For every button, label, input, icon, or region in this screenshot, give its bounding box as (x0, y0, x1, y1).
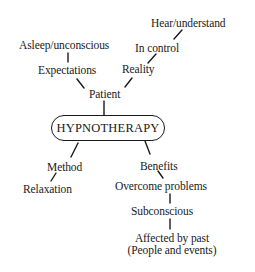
node-affected-by-past: Affected by past (People and events) (118, 232, 226, 256)
edge-incontrol-reality (148, 54, 156, 63)
edge-reality-patient (125, 78, 132, 87)
edge-method-relaxation (51, 173, 56, 181)
node-asleep-unconscious: Asleep/unconscious (19, 39, 109, 51)
edge-hypnotherapy-benefits (145, 141, 150, 154)
node-affected-by-past-line2: (People and events) (118, 244, 226, 256)
edge-expectations-patient (77, 79, 84, 88)
node-overcome-problems: Overcome problems (115, 180, 207, 192)
node-affected-by-past-line1: Affected by past (118, 232, 226, 244)
edge-hypnotherapy-method (71, 143, 78, 157)
node-expectations: Expectations (38, 64, 96, 76)
node-hear-understand: Hear/understand (151, 17, 226, 29)
node-in-control: In control (135, 42, 179, 54)
node-subconscious: Subconscious (131, 205, 193, 217)
node-patient: Patient (89, 88, 120, 100)
central-node-hypnotherapy: HYPNOTHERAPY (51, 115, 165, 141)
node-reality: Reality (122, 63, 155, 75)
central-node-label: HYPNOTHERAPY (56, 121, 159, 136)
edge-hear-incontrol (174, 30, 182, 39)
node-relaxation: Relaxation (23, 183, 72, 195)
node-method: Method (47, 161, 82, 173)
node-benefits: Benefits (140, 160, 178, 172)
edge-benefits-overcome (158, 171, 163, 178)
